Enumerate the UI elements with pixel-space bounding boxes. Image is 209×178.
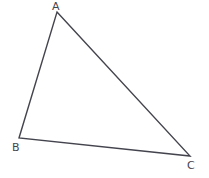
vertex-label-a: A (52, 1, 60, 12)
vertex-label-c: C (187, 160, 195, 171)
triangle-drawing (0, 0, 209, 178)
vertex-label-b: B (12, 142, 20, 153)
geometry-figure-canvas: A B C (0, 0, 209, 178)
triangle-abc-outline (19, 12, 190, 156)
